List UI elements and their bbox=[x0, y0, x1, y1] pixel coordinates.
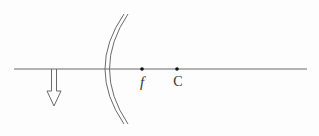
focal-point-label: f bbox=[140, 74, 146, 90]
center-of-curvature-dot bbox=[175, 67, 179, 71]
center-of-curvature-label: C bbox=[173, 74, 182, 89]
focal-point-dot bbox=[140, 67, 144, 71]
diagram-svg: f C bbox=[0, 0, 319, 136]
object-arrow bbox=[47, 69, 61, 106]
mirror-diagram: f C bbox=[0, 0, 319, 136]
